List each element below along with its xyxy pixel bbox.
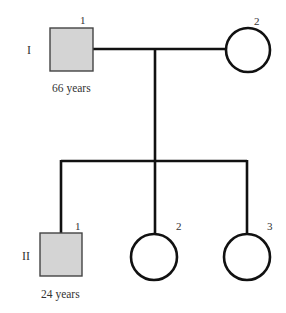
age-label: 66 years bbox=[52, 82, 91, 95]
individual-I-2: 2 bbox=[226, 15, 270, 72]
individual-I-1: 1 66 years bbox=[50, 14, 93, 95]
generation-label-II: II bbox=[22, 249, 30, 263]
generation-label-I: I bbox=[27, 43, 31, 57]
individual-number: 2 bbox=[176, 220, 182, 232]
individual-number: 1 bbox=[75, 220, 81, 232]
unaffected-female-circle-icon bbox=[226, 28, 270, 72]
affected-male-square-icon bbox=[40, 233, 82, 276]
pedigree-chart: I II 1 66 years 2 1 24 years 2 3 bbox=[0, 0, 286, 313]
individual-II-3: 3 bbox=[224, 220, 273, 280]
age-label: 24 years bbox=[41, 288, 80, 301]
individual-number: 2 bbox=[254, 15, 260, 27]
unaffected-female-circle-icon bbox=[131, 234, 177, 280]
individual-number: 3 bbox=[267, 220, 273, 232]
affected-male-square-icon bbox=[50, 28, 93, 71]
unaffected-female-circle-icon bbox=[224, 234, 270, 280]
individual-number: 1 bbox=[80, 14, 86, 26]
